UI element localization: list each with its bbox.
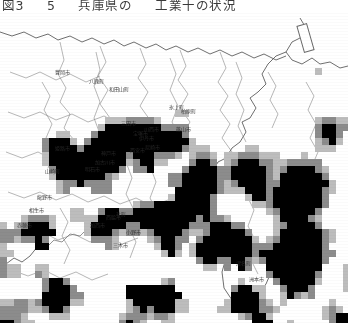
mesh-cell [294, 159, 301, 166]
mesh-cell [315, 243, 322, 250]
mesh-cell [182, 201, 189, 208]
mesh-cell [147, 292, 154, 299]
place-label: 小野市 [124, 230, 142, 235]
mesh-cell [189, 187, 196, 194]
mesh-cell [91, 236, 98, 243]
mesh-cell [63, 292, 70, 299]
mesh-cell [308, 236, 315, 243]
mesh-cell [273, 208, 280, 215]
mesh-cell [294, 264, 301, 271]
mesh-cell [168, 138, 175, 145]
mesh-cell [266, 236, 273, 243]
mesh-cell [238, 299, 245, 306]
place-label: 豊岡市 [53, 70, 71, 75]
mesh-cell [259, 313, 266, 320]
mesh-cell [280, 271, 287, 278]
mesh-cell [70, 208, 77, 215]
mesh-cell [259, 187, 266, 194]
mesh-cell [210, 152, 217, 159]
mesh-cell [231, 166, 238, 173]
place-label: 社町 [112, 212, 130, 217]
mesh-cell [301, 257, 308, 264]
mesh-cell [280, 180, 287, 187]
mesh-cell [266, 208, 273, 215]
mesh-cell [245, 299, 252, 306]
mesh-cell [280, 229, 287, 236]
mesh-cell [238, 313, 245, 320]
mesh-cell [14, 229, 21, 236]
mesh-cell [35, 299, 42, 306]
mesh-cell [238, 250, 245, 257]
mesh-cell [224, 299, 231, 306]
mesh-cell [294, 257, 301, 264]
mesh-cell [203, 180, 210, 187]
mesh-cell [42, 264, 49, 271]
mesh-cell [189, 201, 196, 208]
mesh-cell [189, 159, 196, 166]
mesh-cell [308, 201, 315, 208]
mesh-cell [259, 166, 266, 173]
mesh-cell [203, 257, 210, 264]
mesh-cell [189, 173, 196, 180]
place-label: 洲本市 [247, 277, 265, 282]
place-label: 氷上町 [167, 105, 185, 110]
mesh-cell [133, 152, 140, 159]
mesh-cell [168, 229, 175, 236]
place-label: 津名町 [234, 261, 252, 266]
mesh-cell [161, 313, 168, 320]
mesh-cell [315, 131, 322, 138]
mesh-cell [140, 159, 147, 166]
mesh-cell [105, 222, 112, 229]
mesh-cell [273, 187, 280, 194]
mesh-cell [315, 208, 322, 215]
mesh-cell [35, 271, 42, 278]
mesh-cell [182, 187, 189, 194]
mesh-cell [182, 236, 189, 243]
mesh-cell [203, 250, 210, 257]
mesh-cell [287, 166, 294, 173]
mesh-cell [42, 271, 49, 278]
mesh-cell [154, 243, 161, 250]
mesh-cell [175, 194, 182, 201]
mesh-cell [98, 208, 105, 215]
mesh-cell [294, 271, 301, 278]
mesh-cell [329, 180, 336, 194]
mesh-cell [182, 180, 189, 187]
mesh-cell [203, 194, 210, 201]
mesh-cell [147, 285, 154, 292]
mesh-cell [231, 243, 238, 250]
mesh-cell [301, 278, 308, 285]
mesh-cell [189, 138, 196, 145]
mesh-cell [196, 166, 203, 173]
mesh-cell [336, 131, 343, 138]
mesh-cell [245, 194, 252, 201]
mesh-cell [0, 271, 7, 278]
mesh-cell [231, 299, 238, 306]
mesh-cell [322, 236, 329, 243]
mesh-cell [154, 299, 161, 306]
mesh-cell [266, 180, 273, 187]
mesh-cell [301, 166, 308, 173]
mesh-cell [322, 229, 329, 236]
mesh-cell [252, 243, 259, 250]
mesh-cell [266, 250, 273, 257]
mesh-cell [168, 285, 175, 292]
mesh-cell [280, 250, 287, 257]
mesh-cell [21, 236, 28, 243]
mesh-cell [42, 285, 49, 292]
mesh-cell [273, 278, 280, 285]
mesh-cell [0, 264, 7, 271]
mesh-cell [189, 222, 196, 229]
mesh-cell [203, 236, 210, 243]
mesh-cell [294, 166, 301, 173]
mesh-cell [280, 299, 287, 306]
mesh-cell [168, 201, 175, 208]
mesh-cell [322, 194, 329, 201]
mesh-cell [140, 152, 147, 159]
mesh-cell [203, 222, 210, 229]
mesh-cell [301, 208, 308, 215]
mesh-cell [42, 152, 49, 166]
figure-page: 図3 5 兵庫県の 工業十の状況 [0, 0, 348, 323]
mesh-cell [210, 208, 217, 215]
mesh-cell [182, 173, 189, 180]
